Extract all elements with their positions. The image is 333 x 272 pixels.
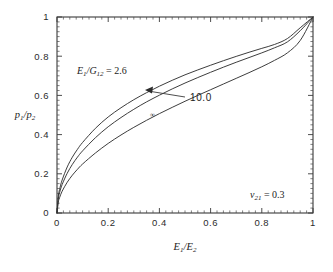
plot-frame [57,17,313,213]
x-tick-label: 0 [54,217,60,228]
x-tick-label: 0.8 [254,217,269,228]
x-tick-label: 0.2 [101,217,116,228]
curve-label-infinity: ∞ [150,111,155,119]
y-tick-label: 0.6 [34,90,49,101]
nu-value: = 0.3 [261,189,284,200]
x-tick-label: 0.4 [152,217,167,228]
nu-sub: 21 [254,194,261,202]
y-tick-label: 0.2 [34,168,49,179]
y-axis-title-slash: /p [23,109,32,120]
x-tick-labels: 00.20.40.60.81 [54,217,316,228]
label-e: E [76,65,83,76]
x-tick-label: 1 [310,217,316,228]
x-axis-title-slash: /E [183,241,194,252]
y-tick-label: 0.8 [34,51,49,62]
y-tick-label: 1 [43,11,49,22]
y-axis-title: p1/p2 [14,109,36,122]
y-axis-title-sub2: 2 [32,114,36,122]
curve-label-10: 10.0 [190,92,212,103]
y-tick-label: 0.4 [34,129,49,140]
line-chart: 00.20.40.60.81 00.20.40.60.81 p1/p2 E1/E… [0,0,333,272]
label-g: /G [86,65,97,76]
x-tick-label: 0.6 [203,217,218,228]
figure-container: 00.20.40.60.81 00.20.40.60.81 p1/p2 E1/E… [0,0,333,272]
y-tick-labels: 00.20.40.60.81 [34,11,49,218]
x-axis-title: E1/E2 [173,241,197,254]
x-axis-title-sub2: 2 [193,246,197,254]
label-value-2p6: = 2.6 [104,65,127,76]
y-tick-label: 0 [43,207,49,218]
